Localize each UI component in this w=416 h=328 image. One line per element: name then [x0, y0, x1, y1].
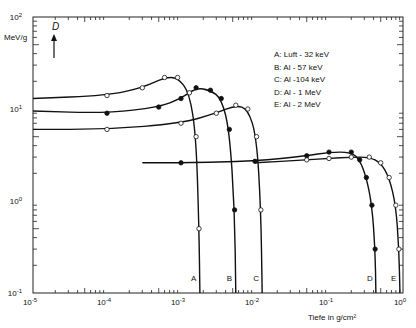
- y-tick-label: 10-1: [8, 288, 23, 298]
- x-tick-label: 10-5: [23, 297, 38, 307]
- curve-label-e: E: [391, 274, 396, 283]
- data-point-b: [179, 96, 183, 100]
- data-point-e: [387, 175, 391, 179]
- data-point-d: [358, 158, 362, 162]
- y-tick-label: 101: [10, 104, 23, 114]
- data-point-e: [367, 155, 371, 159]
- data-point-c: [214, 111, 218, 115]
- y-tick-label: 102: [10, 12, 23, 22]
- plot-frame: [33, 17, 403, 293]
- x-tick-label: 10-1: [319, 297, 334, 307]
- curve-b: [33, 89, 236, 293]
- curve-label-c: C: [253, 274, 259, 283]
- data-point-c: [254, 134, 258, 138]
- data-point-e: [305, 158, 309, 162]
- data-point-e: [327, 156, 331, 160]
- data-point-b: [227, 127, 231, 131]
- legend-entry-c: C: Al -104 keV: [274, 75, 326, 84]
- curve-label-a: A: [191, 274, 197, 283]
- data-point-d: [179, 161, 183, 165]
- data-point-c: [105, 127, 109, 131]
- data-point-b: [105, 111, 109, 115]
- data-point-d: [253, 159, 257, 163]
- data-point-a: [187, 91, 191, 95]
- data-point-c: [179, 121, 183, 125]
- data-point-a: [140, 86, 144, 90]
- curve-label-b: B: [227, 274, 232, 283]
- x-tick-label: 100: [394, 297, 407, 307]
- data-point-b: [219, 96, 223, 100]
- data-point-a: [105, 93, 109, 97]
- data-point-c: [246, 107, 250, 111]
- data-point-e: [379, 161, 383, 165]
- axes: [33, 17, 403, 293]
- data-point-a: [175, 75, 179, 79]
- x-tick-label: 10-2: [245, 297, 260, 307]
- x-tick-label: 10-3: [171, 297, 186, 307]
- y-axis-unit: MeV/g: [4, 33, 27, 42]
- data-point-b: [194, 86, 198, 90]
- data-point-d: [349, 150, 353, 154]
- data-point-e: [349, 155, 353, 159]
- data-point-c: [259, 208, 263, 212]
- data-point-d: [370, 203, 374, 207]
- curve-e: [255, 157, 400, 293]
- curve-c: [33, 106, 262, 293]
- legend-entry-b: B: Al - 57 keV: [274, 63, 323, 72]
- data-point-a: [194, 134, 198, 138]
- data-point-a: [197, 226, 201, 230]
- curve-label-d: D: [367, 274, 373, 283]
- data-point-d: [327, 150, 331, 154]
- legend-entry-d: D: Al - 1 MeV: [274, 88, 322, 97]
- legend-entry-e: E: Al - 2 MeV: [274, 100, 321, 109]
- legend-entry-a: A: Luft - 32 keV: [274, 50, 330, 59]
- curve-a: [33, 77, 200, 293]
- data-point-e: [397, 247, 401, 251]
- data-point-e: [394, 203, 398, 207]
- curves: [33, 77, 400, 293]
- depth-dose-chart: 10-510-410-310-210-110010-1100101102MeV/…: [0, 0, 416, 328]
- arrow-head-icon: [51, 34, 57, 41]
- data-point-a: [162, 75, 166, 79]
- x-tick-label: 10-4: [97, 297, 112, 307]
- dose-symbol: D: [52, 21, 59, 32]
- y-tick-label: 100: [10, 196, 23, 206]
- x-axis-label: Tiefe in g/cm²: [308, 313, 356, 322]
- data-point-b: [232, 208, 236, 212]
- data-point-d: [364, 175, 368, 179]
- labels: 10-510-410-310-210-110010-1100101102MeV/…: [4, 12, 407, 322]
- data-point-c: [234, 103, 238, 107]
- data-point-d: [373, 247, 377, 251]
- data-point-b: [208, 88, 212, 92]
- data-point-b: [157, 105, 161, 109]
